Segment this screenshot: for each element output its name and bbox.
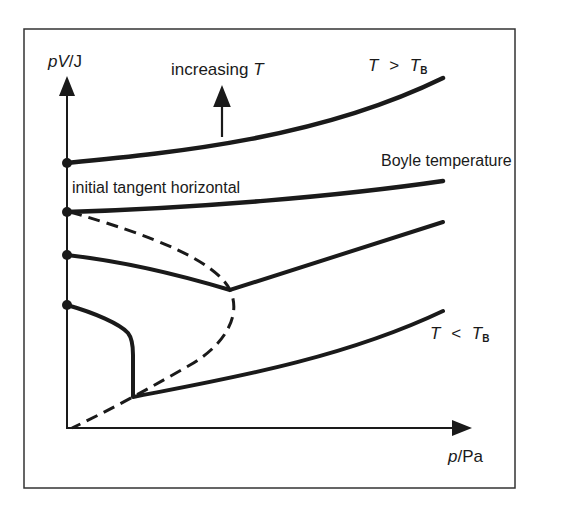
start-dot-3 <box>62 250 72 260</box>
tb-subscript: B <box>420 65 427 76</box>
increasing-t-label: increasing T <box>171 60 264 80</box>
above-boyle-label: T > TB <box>368 56 427 76</box>
increasing-t-text: increasing <box>171 60 253 79</box>
boyle-temperature-label: Boyle temperature <box>381 152 512 170</box>
curve-intermediate <box>67 222 443 290</box>
dashed-minimum-locus <box>70 212 234 428</box>
tb-subscript: B <box>482 333 489 344</box>
less-than-symbol: < <box>451 324 461 343</box>
curve-below-boyle <box>67 305 443 397</box>
diagram-canvas <box>0 0 570 514</box>
greater-than-symbol: > <box>389 56 399 75</box>
tb-var: T <box>472 324 482 343</box>
start-dot-1 <box>62 158 72 168</box>
x-axis-unit: /Pa <box>457 447 483 466</box>
start-dot-2 <box>62 207 72 217</box>
below-boyle-label: T < TB <box>430 324 489 344</box>
y-axis-label: pV/J <box>48 52 82 72</box>
y-axis-unit: /J <box>69 52 82 71</box>
t-var: T <box>368 56 378 75</box>
initial-tangent-label: initial tangent horizontal <box>72 179 240 197</box>
curve-above-boyle <box>67 78 443 163</box>
t-var: T <box>430 324 440 343</box>
start-dot-4 <box>62 300 72 310</box>
y-axis-var: pV <box>48 52 69 71</box>
x-axis-label: p/Pa <box>448 447 483 467</box>
increasing-t-var: T <box>253 60 263 79</box>
tb-var: T <box>410 56 420 75</box>
